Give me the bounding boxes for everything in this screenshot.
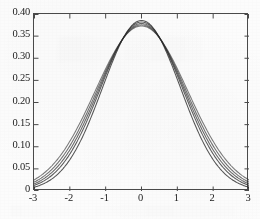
y-tick-label: 0.40 bbox=[0, 6, 30, 17]
scan-artifact-lower bbox=[10, 205, 250, 217]
x-tick-label: 2 bbox=[198, 192, 226, 203]
plot-area bbox=[33, 13, 248, 190]
y-tick-label: 0.05 bbox=[0, 161, 30, 172]
x-tick-label: -1 bbox=[91, 192, 119, 203]
density-curve bbox=[34, 20, 249, 187]
x-tick-label: -3 bbox=[19, 192, 47, 203]
figure-container: 00.050.100.150.200.250.300.350.40 -3-2-1… bbox=[0, 0, 260, 219]
x-tick-label: 1 bbox=[162, 192, 190, 203]
y-tick-label: 0.35 bbox=[0, 28, 30, 39]
y-tick-label: 0.15 bbox=[0, 117, 30, 128]
x-tick-label: -2 bbox=[55, 192, 83, 203]
y-tick-label: 0.30 bbox=[0, 50, 30, 61]
density-curve bbox=[34, 22, 249, 186]
y-tick-label: 0.10 bbox=[0, 139, 30, 150]
x-tick-label: 0 bbox=[127, 192, 155, 203]
y-tick-label: 0.25 bbox=[0, 72, 30, 83]
y-tick-label: 0.20 bbox=[0, 95, 30, 106]
x-tick-label: 3 bbox=[234, 192, 260, 203]
density-curve bbox=[34, 26, 249, 180]
density-curves bbox=[34, 14, 249, 191]
